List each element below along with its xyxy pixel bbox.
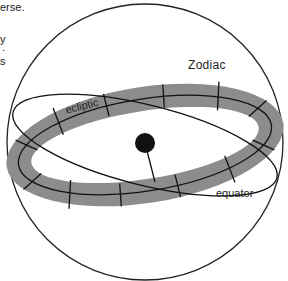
zodiac-label: Zodiac: [188, 58, 226, 72]
earth: [135, 133, 155, 153]
celestial-sphere-diagram: [0, 0, 288, 281]
equator-label: equator: [216, 187, 253, 199]
